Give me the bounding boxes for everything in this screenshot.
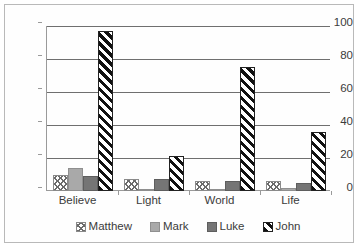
bar-light-mark xyxy=(139,189,154,191)
x-tick-life xyxy=(331,191,332,195)
y-tick-mark-80 xyxy=(38,55,42,56)
legend-swatch-mark-icon xyxy=(150,222,160,232)
legend-label-mark: Mark xyxy=(163,221,189,233)
bar-believe-mark xyxy=(68,168,83,191)
legend-item-luke: Luke xyxy=(207,221,245,233)
legend-swatch-matthew-icon xyxy=(76,222,86,232)
bar-group-light xyxy=(118,26,189,191)
legend-item-john: John xyxy=(263,221,301,233)
legend-swatch-luke-icon xyxy=(207,222,217,232)
bar-believe-luke xyxy=(83,176,98,191)
x-axis-label-world: World xyxy=(184,195,255,207)
x-axis-label-light: Light xyxy=(113,195,184,207)
y-tick-mark-0 xyxy=(38,187,42,188)
bar-life-john xyxy=(311,132,326,191)
bar-believe-matthew xyxy=(53,175,68,192)
plot-area xyxy=(46,26,330,191)
bar-world-john xyxy=(240,67,255,191)
bar-light-luke xyxy=(154,179,169,191)
legend-label-matthew: Matthew xyxy=(89,221,132,233)
chart-legend: Matthew Mark Luke John xyxy=(46,221,330,233)
legend-label-luke: Luke xyxy=(220,221,245,233)
bar-group-world xyxy=(189,26,260,191)
chart-frame: 100 80 60 40 20 0 xyxy=(4,4,354,243)
legend-item-matthew: Matthew xyxy=(76,221,132,233)
bar-light-john xyxy=(169,156,184,191)
x-axis-label-believe: Believe xyxy=(42,195,113,207)
bar-world-luke xyxy=(225,181,240,191)
legend-swatch-john-icon xyxy=(263,222,273,232)
bar-life-matthew xyxy=(266,181,281,191)
bar-life-mark xyxy=(281,188,296,191)
y-tick-mark-100 xyxy=(38,22,42,23)
bar-light-matthew xyxy=(124,179,139,191)
bar-world-matthew xyxy=(195,181,210,191)
bar-life-luke xyxy=(296,183,311,191)
bar-world-mark xyxy=(210,189,225,191)
bar-group-believe xyxy=(47,26,118,191)
legend-item-mark: Mark xyxy=(150,221,189,233)
bar-believe-john xyxy=(98,31,113,191)
y-tick-mark-20 xyxy=(38,154,42,155)
y-tick-mark-40 xyxy=(38,121,42,122)
y-tick-mark-60 xyxy=(38,88,42,89)
x-axis-label-life: Life xyxy=(255,195,326,207)
legend-label-john: John xyxy=(276,221,301,233)
bar-group-life xyxy=(260,26,331,191)
